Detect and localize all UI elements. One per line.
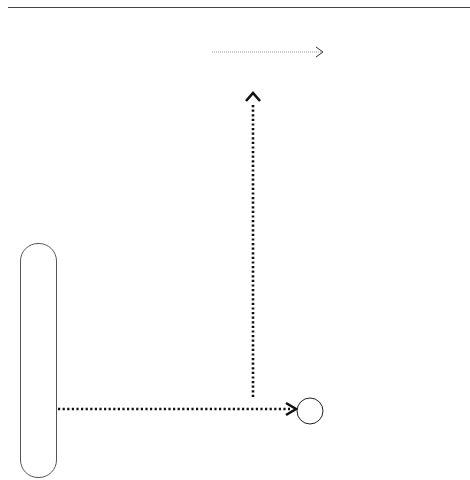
diagram-arrows	[0, 0, 470, 480]
